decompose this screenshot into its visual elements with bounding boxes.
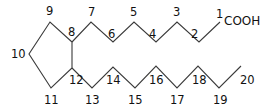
locant-10: 10 — [11, 47, 26, 61]
locant-7: 7 — [88, 5, 95, 19]
locant-9: 9 — [46, 4, 53, 18]
locant-19: 19 — [213, 93, 228, 107]
locant-5: 5 — [130, 5, 137, 19]
locant-20: 20 — [240, 73, 255, 87]
locant-15: 15 — [128, 93, 143, 107]
skeletal-formula-diagram: 1 2 3 4 5 6 7 8 9 10 11 12 13 14 15 16 1… — [0, 0, 274, 112]
carboxyl-group-label: COOH — [224, 14, 260, 28]
structure-svg: 1 2 3 4 5 6 7 8 9 10 11 12 13 14 15 16 1… — [0, 0, 274, 112]
locant-3: 3 — [173, 5, 180, 19]
locant-6: 6 — [108, 27, 115, 41]
locant-11: 11 — [44, 93, 59, 107]
locant-18: 18 — [192, 73, 207, 87]
locant-13: 13 — [85, 93, 100, 107]
locant-12: 12 — [69, 73, 84, 87]
locant-1: 1 — [216, 7, 223, 21]
locant-8: 8 — [68, 25, 75, 39]
locant-2: 2 — [191, 27, 198, 41]
locant-14: 14 — [106, 73, 121, 87]
locant-4: 4 — [149, 27, 156, 41]
locant-16: 16 — [149, 73, 164, 87]
locant-17: 17 — [170, 93, 185, 107]
cyclopentane-ring — [29, 22, 72, 88]
